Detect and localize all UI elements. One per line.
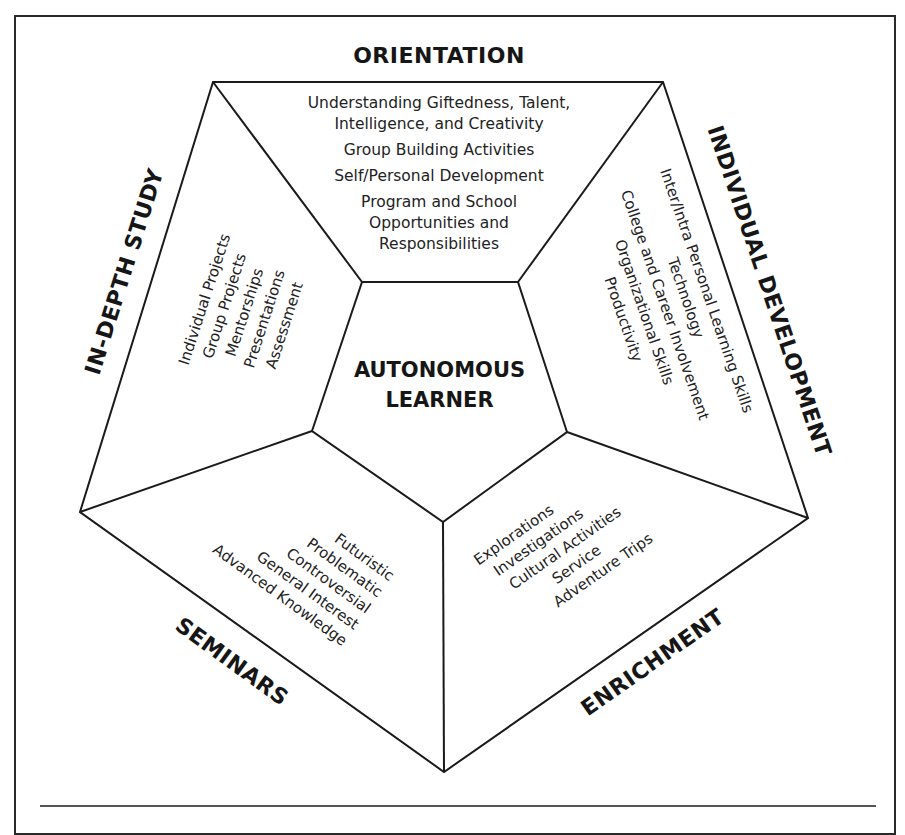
orientation-item: Intelligence, and Creativity xyxy=(0,113,878,136)
center-title-line: AUTONOMOUS xyxy=(312,355,567,385)
orientation-heading: ORIENTATION xyxy=(0,43,878,68)
orientation-item: Group Building Activities xyxy=(0,139,878,162)
center-title-line: LEARNER xyxy=(312,385,567,415)
center-title: AUTONOMOUS LEARNER xyxy=(312,355,567,415)
orientation-item: Understanding Giftedness, Talent, xyxy=(0,92,878,115)
spoke-bottom xyxy=(443,522,444,772)
